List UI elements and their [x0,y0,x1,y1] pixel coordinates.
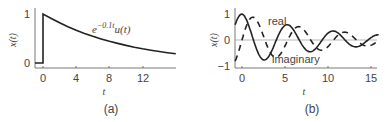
y-tick-label: 0 [24,57,30,69]
x-tick-label: 0 [239,72,245,84]
y-tick-label: 0 [224,34,230,46]
panel-a: 0 4 8 12 1 0 x(t) t (a) e−0.1tu(t) [7,8,176,116]
x-tick-label: 0 [40,72,46,84]
panel-b: 0 5 10 15 1 0 −1 x(t) t (b) real imagina… [208,8,379,116]
x-tick-label: 4 [73,72,79,84]
x-tick-label: 15 [365,72,377,84]
curve-annotation: e−0.1tu(t) [92,21,131,36]
x-tick-label: 8 [106,72,112,84]
y-tick-label: −1 [217,60,230,72]
y-tick-label: 1 [224,8,230,20]
x-tick-label: 10 [322,72,334,84]
caption-a: (a) [104,102,119,116]
x-axis-label: t [303,86,306,97]
x-tick-label: 12 [137,72,149,84]
y-axis-label: x(t) [7,32,19,48]
y-tick-label: 1 [24,8,30,20]
x-tick-label: 5 [282,72,288,84]
figure: 0 4 8 12 1 0 x(t) t (a) e−0.1tu(t) 0 5 1… [0,0,388,122]
imaginary-label: imaginary [272,53,320,65]
real-label: real [268,15,286,27]
y-axis-label: x(t) [208,32,220,48]
caption-b: (b) [305,102,320,116]
x-axis-label: t [103,86,106,97]
